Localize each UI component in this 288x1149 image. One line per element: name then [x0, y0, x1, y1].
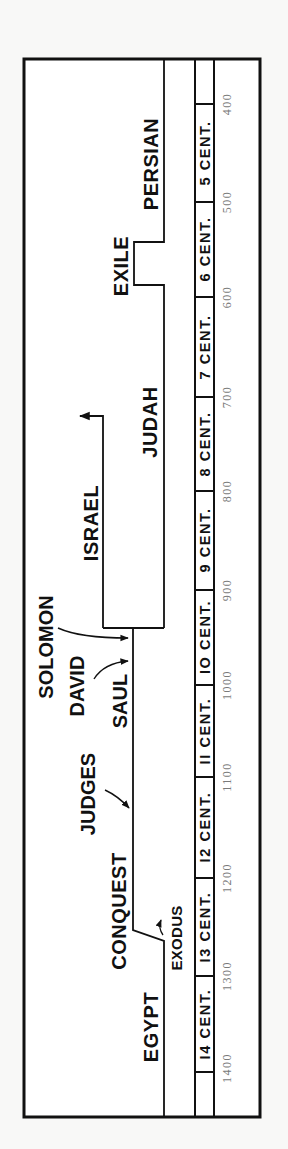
label-exile: EXILE: [111, 236, 131, 296]
year-label-600: 600: [221, 286, 233, 309]
century-label-9: 9 CENT.: [198, 507, 213, 572]
year-label-700: 700: [221, 386, 233, 409]
century-label-8: 8 CENT.: [198, 411, 213, 476]
label-egypt: EGYPT: [141, 992, 161, 1062]
century-label-10: IO CENT.: [198, 600, 213, 674]
century-label-12: I2 CENT.: [198, 792, 213, 863]
year-label-1100: 1100: [221, 762, 233, 792]
year-label-1300: 1300: [221, 961, 233, 991]
year-label-1000: 1000: [221, 670, 233, 700]
century-label-13: I3 CENT.: [198, 892, 213, 963]
exodus-pointer-arrow: [160, 920, 163, 935]
century-label-7: 7 CENT.: [198, 314, 213, 379]
label-solomon: SOLOMON: [36, 595, 56, 698]
year-label-1400: 1400: [221, 1053, 233, 1083]
century-label-14: I4 CENT.: [198, 989, 213, 1060]
year-label-800: 800: [221, 480, 233, 503]
label-persian: PERSIAN: [141, 118, 161, 210]
judges-pointer-arrow: [105, 790, 129, 808]
solomon-pointer-arrow: [58, 628, 128, 638]
label-david: DAVID: [67, 656, 87, 717]
label-judges: JUDGES: [78, 753, 98, 835]
label-saul: SAUL: [110, 674, 130, 728]
year-label-400: 400: [221, 93, 233, 116]
label-conquest: CONQUEST: [109, 852, 129, 969]
year-label-900: 900: [221, 579, 233, 602]
year-label-1200: 1200: [221, 863, 233, 893]
label-israel: ISRAEL: [81, 485, 101, 561]
label-exodus: EXODUS: [169, 905, 184, 970]
century-label-5: 5 CENT.: [198, 120, 213, 185]
century-label-11: II CENT.: [198, 698, 213, 765]
year-label-500: 500: [221, 191, 233, 214]
label-judah: JUDAH: [140, 386, 160, 457]
century-label-6: 6 CENT.: [198, 216, 213, 281]
